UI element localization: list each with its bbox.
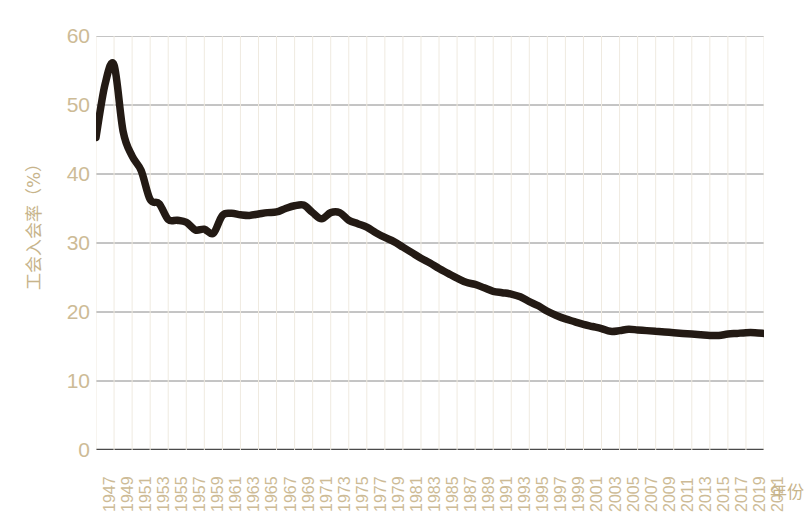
x-tick-label-1969: 1969 <box>301 452 317 512</box>
x-tick-label-1985: 1985 <box>445 452 461 512</box>
y-tick-label-0: 0 <box>48 439 90 460</box>
x-tick-label-2011: 2011 <box>680 452 696 512</box>
y-tick-label-20: 20 <box>48 301 90 322</box>
x-tick-label-1997: 1997 <box>553 452 569 512</box>
x-tick-label-2007: 2007 <box>644 452 660 512</box>
x-tick-label-1981: 1981 <box>409 452 425 512</box>
series-line-union-rate <box>96 63 764 336</box>
x-tick-label-2009: 2009 <box>662 452 678 512</box>
x-tick-label-1947: 1947 <box>102 452 118 512</box>
x-tick-label-1983: 1983 <box>427 452 443 512</box>
x-tick-label-2005: 2005 <box>626 452 642 512</box>
x-tick-label-1979: 1979 <box>391 452 407 512</box>
x-tick-label-1961: 1961 <box>228 452 244 512</box>
x-tick-label-1995: 1995 <box>535 452 551 512</box>
x-tick-label-1999: 1999 <box>571 452 587 512</box>
plot-svg <box>96 36 764 450</box>
y-tick-label-30: 30 <box>48 232 90 253</box>
x-tick-label-1951: 1951 <box>138 452 154 512</box>
x-tick-label-1963: 1963 <box>246 452 262 512</box>
x-tick-label-1949: 1949 <box>120 452 136 512</box>
x-tick-label-2003: 2003 <box>608 452 624 512</box>
x-tick-label-1971: 1971 <box>319 452 335 512</box>
x-axis-tick-labels: 1947194919511953195519571959196119631965… <box>96 452 786 522</box>
union-membership-rate-chart: 工会入会率（%） 0102030405060 19471949195119531… <box>0 0 810 522</box>
gridlines <box>96 36 764 450</box>
x-tick-label-1967: 1967 <box>283 452 299 512</box>
x-tick-label-1959: 1959 <box>210 452 226 512</box>
x-tick-label-1977: 1977 <box>373 452 389 512</box>
x-tick-label-1989: 1989 <box>481 452 497 512</box>
x-tick-label-1993: 1993 <box>517 452 533 512</box>
y-tick-label-10: 10 <box>48 370 90 391</box>
y-tick-label-50: 50 <box>48 94 90 115</box>
x-tick-label-2019: 2019 <box>752 452 768 512</box>
x-tick-label-2017: 2017 <box>734 452 750 512</box>
x-tick-label-1965: 1965 <box>264 452 280 512</box>
plot-area <box>96 36 764 450</box>
x-tick-label-1955: 1955 <box>174 452 190 512</box>
x-tick-label-1991: 1991 <box>499 452 515 512</box>
y-tick-label-60: 60 <box>48 25 90 46</box>
x-tick-label-1957: 1957 <box>192 452 208 512</box>
x-tick-label-2013: 2013 <box>698 452 714 512</box>
y-axis-tick-labels: 0102030405060 <box>40 0 90 522</box>
y-tick-label-40: 40 <box>48 163 90 184</box>
x-tick-label-1953: 1953 <box>156 452 172 512</box>
x-tick-label-1975: 1975 <box>355 452 371 512</box>
x-tick-label-1987: 1987 <box>463 452 479 512</box>
x-tick-label-2001: 2001 <box>589 452 605 512</box>
x-tick-label-2015: 2015 <box>716 452 732 512</box>
x-tick-label-1973: 1973 <box>337 452 353 512</box>
x-axis-title: 年份 <box>770 478 804 503</box>
